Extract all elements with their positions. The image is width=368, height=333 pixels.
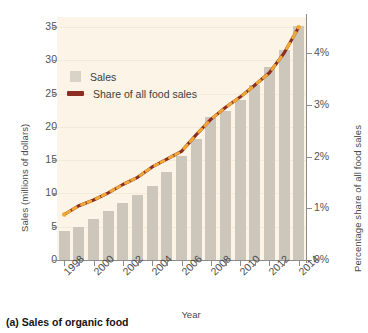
organic-food-sales-figure: Sales (millions of dollars) Percentage s… (0, 0, 368, 333)
share-line-marker (249, 88, 252, 90)
y-axis-left-tick-label: 0 (13, 253, 57, 265)
share-line-marker (293, 33, 296, 38)
share-line-marker (67, 211, 70, 213)
y-axis-left-tick-mark (52, 60, 57, 61)
y-axis-left-tick-mark (52, 94, 57, 95)
share-line-markers (62, 25, 301, 217)
plot-area (57, 17, 306, 260)
share-line-marker (228, 104, 231, 106)
y-axis-left-tick-label: 5 (13, 220, 57, 232)
y-axis-left-tick-label: 35 (13, 20, 57, 32)
y-axis-right-tick-mark (307, 53, 312, 54)
y-axis-right-tick-label: 3% (314, 98, 329, 110)
share-line-marker (278, 57, 281, 61)
legend-line-swatch-icon (67, 91, 84, 96)
y-axis-left-tick-mark (52, 227, 57, 228)
legend-item-label: Share of all food sales (93, 88, 197, 100)
share-line-marker (220, 110, 223, 112)
y-axis-right-tick-mark (307, 157, 312, 158)
y-axis-left-title: Sales (millions of dollars) (19, 124, 30, 232)
y-axis-right-title: Percentage share of all food sales (352, 125, 363, 272)
line-series-overlay (57, 17, 306, 260)
x-axis-title-text: Year (181, 309, 200, 320)
y-axis-left-tick-label: 15 (13, 153, 57, 165)
figure-caption: (a) Sales of organic food (6, 316, 129, 328)
share-line-marker (132, 179, 135, 181)
share-line-marker (176, 153, 179, 155)
share-line (64, 27, 298, 214)
y-axis-left-tick-label: 25 (13, 87, 57, 99)
share-line-marker (213, 115, 216, 117)
y-axis-left-tick-mark (52, 260, 57, 261)
x-axis-tick-mark (225, 261, 226, 266)
y-axis-left-tick-label: 10 (13, 186, 57, 198)
y-axis-left-tick-label: 20 (13, 120, 57, 132)
share-line-marker (272, 65, 275, 69)
x-axis-tick-mark (255, 261, 256, 266)
y-axis-left-tick-mark (52, 193, 57, 194)
share-line-marker (257, 81, 260, 84)
share-line-marker (82, 204, 85, 205)
share-line-marker (111, 190, 114, 192)
legend-item-share: Share of all food sales (70, 85, 197, 102)
x-axis-tick-mark (167, 261, 168, 266)
share-line-marker (146, 169, 149, 171)
share-line-marker (161, 161, 164, 163)
y-axis-right-tick-mark (307, 105, 312, 106)
y-axis-left-tick-mark (52, 127, 57, 128)
y-axis-left-tick-mark (52, 160, 57, 161)
x-axis-tick-mark (138, 261, 139, 266)
x-axis-tick-mark (108, 261, 109, 266)
y-axis-right-tick-label: 4% (314, 46, 329, 58)
y-axis-right-tick-label: 2% (314, 150, 329, 162)
share-line-endpoint-marker (296, 25, 301, 30)
share-line-marker (155, 164, 158, 166)
share-line-marker (117, 186, 120, 188)
x-axis-tick-mark (196, 261, 197, 266)
share-line-marker (264, 75, 267, 78)
y-axis-left-tick-label: 30 (13, 53, 57, 65)
share-line-marker (102, 194, 105, 196)
y-axis-right-tick-mark (307, 208, 312, 209)
share-line-marker (170, 156, 173, 158)
x-axis-tick-mark (79, 261, 80, 266)
legend: Sales Share of all food sales (70, 68, 197, 102)
share-line-endpoint-marker (62, 212, 67, 217)
share-line-marker (126, 182, 129, 183)
y-axis-left-tick-mark (52, 27, 57, 28)
right-axis-rule (306, 14, 307, 263)
share-line-marker (88, 201, 91, 202)
share-line-marker (287, 43, 290, 48)
y-axis-right-tick-label: 1% (314, 201, 329, 213)
share-line-marker (96, 197, 99, 198)
share-line-marker (234, 99, 237, 101)
share-line-marker (243, 93, 246, 95)
x-axis-tick-mark (284, 261, 285, 266)
legend-bar-swatch-icon (70, 71, 81, 82)
share-line-marker (73, 208, 76, 210)
share-line-marker (140, 173, 143, 175)
share-line-marker (199, 129, 202, 132)
legend-item-sales: Sales (70, 68, 197, 85)
legend-item-label: Sales (90, 71, 116, 83)
